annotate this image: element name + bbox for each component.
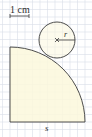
side-label: s (45, 123, 49, 133)
quarter-circle (10, 47, 85, 122)
scale-label: 1 cm (10, 4, 30, 15)
geometry-diagram: 1 cm r s (0, 0, 92, 137)
